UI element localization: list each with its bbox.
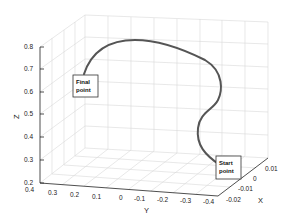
final-point-label-line1: Final — [76, 79, 90, 85]
start-point-label-line1: Start — [219, 160, 233, 166]
z-axis-label: Z — [12, 114, 21, 119]
y-tick-label: 0 — [119, 194, 123, 201]
z-tick-label: 0.5 — [24, 110, 33, 117]
start-point-label-line2: point — [219, 168, 234, 174]
y-tick-label: -0.2 — [157, 196, 169, 203]
trajectory-curve — [84, 40, 221, 165]
x-tick-label: -0.01 — [238, 185, 253, 192]
z-axis-ticks: 0.8 0.7 0.6 0.5 0.4 0.3 0.2 Z — [12, 43, 44, 186]
y-tick-label: 0.2 — [70, 191, 79, 198]
y-axis-label: Y — [144, 206, 149, 215]
annotation-start-point: Start point — [216, 156, 241, 179]
final-point-label-line2: point — [76, 87, 91, 93]
annotation-final-point: Final point — [73, 75, 98, 97]
y-tick-label: 0.4 — [25, 186, 34, 193]
y-tick-label: -0.4 — [203, 198, 215, 205]
y-axis-ticks: 0.4 0.3 0.2 0.1 0 -0.1 -0.2 -0.3 -0.4 Y — [25, 186, 215, 215]
z-tick-label: 0.2 — [24, 179, 33, 186]
y-tick-label: -0.3 — [180, 197, 192, 204]
z-tick-label: 0.8 — [24, 43, 33, 50]
x-axis-label: X — [258, 196, 263, 205]
back-wall-grid — [85, 15, 268, 158]
z-tick-label: 0.4 — [24, 133, 33, 140]
x-tick-label: 0.01 — [265, 165, 278, 172]
y-tick-label: 0.3 — [48, 189, 57, 196]
x-tick-label: -0.02 — [226, 196, 241, 203]
x-tick-label: 0 — [253, 175, 257, 182]
plot-3d: 0.8 0.7 0.6 0.5 0.4 0.3 0.2 Z 0.4 0.3 0.… — [0, 0, 291, 219]
y-tick-label: 0.1 — [92, 193, 101, 200]
y-tick-label: -0.1 — [134, 195, 146, 202]
z-tick-label: 0.6 — [24, 88, 33, 95]
z-tick-label: 0.7 — [24, 65, 33, 72]
z-tick-label: 0.3 — [24, 156, 33, 163]
